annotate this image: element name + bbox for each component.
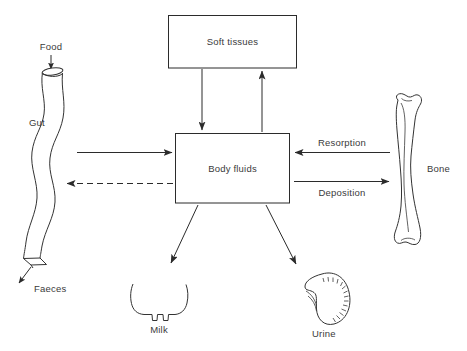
kidney-shape (305, 273, 350, 325)
arrow-body-fluids-to-milk (171, 205, 198, 263)
kidney-hatch-2 (328, 277, 329, 282)
deposition-label: Deposition (319, 187, 366, 198)
bone-organ[interactable]: Bone (394, 94, 450, 245)
bone-shape (394, 94, 421, 245)
gut-organ[interactable]: Gut (24, 66, 64, 268)
gut-label: Gut (29, 117, 45, 128)
body-fluids-label: Body fluids (208, 163, 257, 174)
kidney-hilum-line-2 (308, 296, 317, 311)
udder-organ[interactable]: Milk (131, 284, 188, 335)
diagram-canvas: Soft tissues Body fluids Resorption Depo… (0, 0, 467, 351)
bone-label: Bone (427, 163, 450, 174)
gut-wall-left (24, 72, 45, 259)
body-fluids-box[interactable]: Body fluids (176, 134, 290, 204)
faeces-label: Faeces (34, 283, 66, 294)
resorption-label: Resorption (318, 137, 366, 148)
arrow-body-fluids-to-urine (266, 205, 296, 264)
milk-label: Milk (150, 324, 168, 335)
udder-shape (131, 284, 188, 321)
gut-opening-bottom (24, 258, 47, 265)
arrow-gut-to-faeces (19, 267, 31, 283)
urine-label: Urine (312, 328, 336, 339)
kidney-organ[interactable]: Urine (305, 273, 350, 339)
soft-tissues-label: Soft tissues (207, 36, 259, 47)
soft-tissues-box[interactable]: Soft tissues (169, 16, 297, 69)
food-label: Food (40, 41, 62, 52)
diagram-svg: Soft tissues Body fluids Resorption Depo… (0, 0, 467, 351)
